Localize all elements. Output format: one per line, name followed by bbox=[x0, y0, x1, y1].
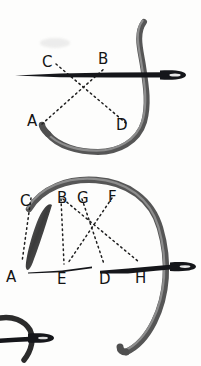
label-upper-D: D bbox=[116, 118, 128, 133]
label-upper-B: B bbox=[98, 52, 108, 67]
slanted-stitch bbox=[26, 204, 52, 270]
lower-dotted-G-D bbox=[82, 199, 104, 264]
label-upper-C: C bbox=[42, 55, 52, 70]
diagram-canvas: C B A D C B G F A E D H bbox=[0, 0, 201, 366]
lower-thread-arc bbox=[27, 179, 166, 352]
upper-needle bbox=[15, 70, 186, 79]
upper-thread-loop bbox=[42, 21, 147, 152]
label-lower-C: C bbox=[20, 194, 30, 209]
label-lower-G: G bbox=[77, 191, 89, 206]
label-lower-A: A bbox=[6, 270, 16, 285]
lower-needle bbox=[100, 262, 196, 273]
label-lower-E: E bbox=[57, 272, 66, 287]
lower-dotted-F-E bbox=[68, 198, 112, 263]
lower-dotted-B-E bbox=[61, 199, 64, 264]
label-lower-F: F bbox=[108, 190, 117, 205]
label-upper-A: A bbox=[27, 114, 37, 129]
label-lower-B: B bbox=[57, 191, 67, 206]
label-lower-H: H bbox=[135, 271, 146, 286]
label-lower-D: D bbox=[99, 272, 111, 287]
bottom-fragment-figure bbox=[0, 318, 54, 361]
